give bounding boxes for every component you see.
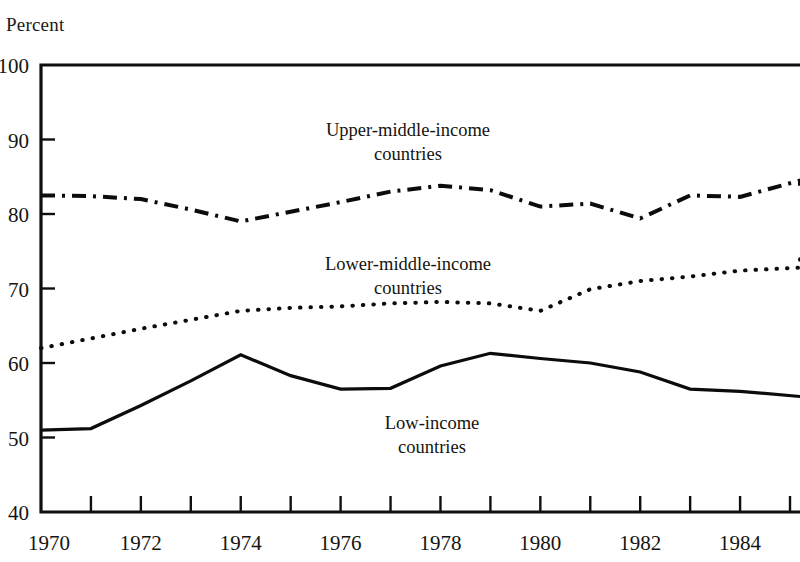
chart-figure: Percent 100908070605040 1970197219741976… xyxy=(0,0,800,562)
x-axis-tick-label: 1984 xyxy=(719,531,762,555)
series-label-upper-middle-income-line1: Upper-middle-income xyxy=(326,120,490,140)
y-axis-tick-marks xyxy=(41,140,55,438)
y-axis-tick-labels: 100908070605040 xyxy=(0,54,29,525)
series-annotation-upper-middle-income: Upper-middle-income countries xyxy=(326,120,490,164)
x-axis-tick-label: 1974 xyxy=(220,531,263,555)
x-axis-tick-label: 1980 xyxy=(519,531,561,555)
y-axis-tick-label: 90 xyxy=(8,129,29,153)
x-axis-tick-label: 1982 xyxy=(619,531,661,555)
series-label-lower-middle-income-line2: countries xyxy=(374,278,442,298)
y-axis-tick-label: 60 xyxy=(8,352,29,376)
y-axis-tick-label: 50 xyxy=(8,427,29,451)
y-axis-tick-label: 80 xyxy=(8,203,29,227)
series-label-upper-middle-income-line2: countries xyxy=(374,144,442,164)
series-label-lower-middle-income-line1: Lower-middle-income xyxy=(325,254,491,274)
line-chart-plot: 100908070605040 197019721974197619781980… xyxy=(0,0,800,562)
x-axis-tick-label: 1976 xyxy=(320,531,362,555)
y-axis-tick-label: 70 xyxy=(8,278,29,302)
y-axis-tick-label: 100 xyxy=(0,54,29,78)
x-axis-tick-label: 1970 xyxy=(28,531,70,555)
x-axis-tick-label: 1972 xyxy=(120,531,162,555)
series-line-upper-middle-income xyxy=(41,180,800,221)
x-axis-tick-labels: 19701972197419761978198019821984 xyxy=(28,531,762,555)
series-label-low-income-line1: Low-income xyxy=(385,413,480,433)
x-axis-tick-marks xyxy=(91,496,790,512)
series-annotation-low-income: Low-income countries xyxy=(385,413,480,457)
series-annotation-lower-middle-income: Lower-middle-income countries xyxy=(325,254,491,298)
y-axis-tick-label: 40 xyxy=(8,501,29,525)
x-axis-tick-label: 1978 xyxy=(419,531,461,555)
series-label-low-income-line2: countries xyxy=(398,437,466,457)
